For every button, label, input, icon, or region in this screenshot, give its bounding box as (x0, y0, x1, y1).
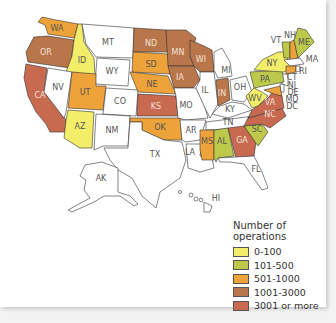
state-IA (168, 66, 200, 88)
svg-text:AL: AL (217, 137, 227, 146)
svg-text:NE: NE (146, 80, 157, 89)
legend-item: 0-100 (233, 245, 336, 259)
svg-text:AZ: AZ (75, 122, 86, 131)
svg-text:IA: IA (176, 73, 184, 82)
svg-text:WI: WI (196, 55, 206, 64)
svg-text:NH: NH (284, 31, 296, 40)
svg-text:ID: ID (78, 56, 87, 65)
svg-text:HI: HI (212, 194, 220, 203)
svg-text:MI: MI (221, 66, 230, 75)
legend-label: 101-500 (254, 260, 294, 271)
svg-text:TX: TX (149, 150, 161, 159)
svg-text:OK: OK (154, 123, 166, 132)
svg-text:RI: RI (299, 67, 307, 76)
svg-text:WA: WA (51, 24, 64, 33)
state-HI (179, 191, 213, 213)
svg-text:OR: OR (40, 48, 52, 57)
svg-text:AR: AR (185, 126, 196, 135)
svg-text:FL: FL (251, 165, 261, 174)
legend-label: 3001 or more (254, 300, 319, 311)
svg-text:MS: MS (201, 137, 213, 146)
legend-label: 1001-3000 (254, 287, 306, 298)
legend-title: Number of operations (233, 220, 336, 242)
svg-text:NV: NV (52, 83, 64, 92)
svg-text:MA: MA (306, 55, 319, 64)
legend-swatch (233, 260, 249, 270)
legend-item: 101-500 (233, 259, 336, 273)
svg-text:DC: DC (286, 102, 298, 111)
svg-text:ME: ME (298, 38, 310, 47)
svg-text:CA: CA (34, 91, 46, 100)
legend-swatch (233, 301, 249, 311)
svg-text:KY: KY (225, 105, 235, 114)
svg-text:ND: ND (145, 39, 157, 48)
legend: Number of operations 0-100 101-500 501-1… (233, 220, 336, 313)
svg-text:GA: GA (236, 136, 248, 145)
svg-text:PA: PA (260, 75, 270, 84)
legend-swatch (233, 287, 249, 297)
svg-text:IN: IN (218, 89, 226, 98)
svg-text:MN: MN (172, 48, 185, 57)
legend-swatch (233, 247, 249, 257)
svg-text:UT: UT (80, 88, 91, 97)
svg-text:WY: WY (106, 67, 119, 76)
svg-text:VT: VT (271, 36, 281, 45)
legend-swatch (233, 274, 249, 284)
svg-text:NM: NM (106, 126, 119, 135)
svg-text:CO: CO (114, 97, 126, 106)
svg-text:OH: OH (234, 83, 246, 92)
svg-text:VA: VA (265, 98, 276, 107)
legend-item: 1001-3000 (233, 286, 336, 300)
svg-text:NC: NC (264, 110, 276, 119)
svg-text:MT: MT (102, 38, 114, 47)
svg-text:LA: LA (185, 148, 196, 157)
svg-text:TN: TN (222, 118, 234, 127)
svg-text:SD: SD (145, 60, 156, 69)
svg-text:KS: KS (151, 102, 161, 111)
svg-text:SC: SC (252, 125, 263, 134)
legend-label: 0-100 (254, 246, 282, 257)
legend-item: 3001 or more (233, 299, 336, 313)
svg-text:WV: WV (248, 94, 262, 103)
svg-text:MO: MO (179, 101, 192, 110)
svg-text:AK: AK (96, 174, 107, 183)
legend-item: 501-1000 (233, 272, 336, 286)
svg-text:IL: IL (202, 86, 209, 95)
state-DE (280, 84, 284, 92)
legend-label: 501-1000 (254, 273, 300, 284)
svg-text:NY: NY (267, 59, 278, 68)
